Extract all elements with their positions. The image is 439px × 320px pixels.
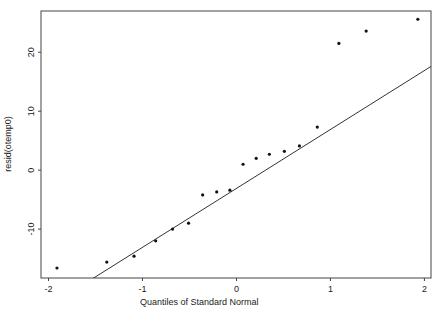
data-point [416, 18, 419, 21]
data-point [268, 153, 271, 156]
y-tick-label: 20 [26, 47, 36, 57]
y-tick-label: 10 [26, 106, 36, 116]
y-tick-label: 0 [26, 168, 36, 173]
y-axis: -1001020 [26, 47, 41, 235]
qq-plot: -2-1012 -1001020 Quantiles of Standard N… [0, 0, 439, 320]
data-point [171, 227, 174, 230]
x-tick-label: 0 [234, 284, 239, 294]
x-axis: -2-1012 [45, 278, 427, 294]
data-point [201, 193, 204, 196]
data-point [187, 222, 190, 225]
data-point [337, 42, 340, 45]
x-tick-label: -2 [45, 284, 53, 294]
data-point [241, 163, 244, 166]
data-points [55, 18, 419, 270]
plot-frame [41, 11, 431, 278]
data-point [365, 29, 368, 32]
qq-reference-line [41, 66, 431, 311]
x-axis-label: Quantiles of Standard Normal [140, 297, 259, 307]
y-axis-label: resid(otemp0) [3, 116, 13, 172]
data-point [255, 157, 258, 160]
data-point [55, 266, 58, 269]
data-point [228, 189, 231, 192]
y-tick-label: -10 [26, 223, 36, 236]
x-tick-label: -1 [138, 284, 146, 294]
reference-line [41, 66, 431, 311]
data-point [298, 144, 301, 147]
data-point [132, 255, 135, 258]
x-tick-label: 2 [422, 284, 427, 294]
data-point [105, 260, 108, 263]
data-point [154, 239, 157, 242]
x-tick-label: 1 [328, 284, 333, 294]
data-point [215, 190, 218, 193]
data-point [316, 126, 319, 129]
data-point [283, 150, 286, 153]
